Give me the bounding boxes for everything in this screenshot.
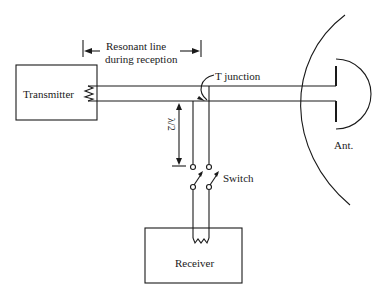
t-junction-label: T junction bbox=[215, 71, 260, 82]
receiver-coil-icon bbox=[193, 238, 209, 243]
antenna-arc bbox=[336, 59, 371, 129]
switch-terminal bbox=[191, 165, 196, 170]
receiver-label: Receiver bbox=[175, 258, 214, 269]
switch-terminal bbox=[191, 185, 196, 190]
switch-terminal bbox=[207, 185, 212, 190]
diagram-canvas: Transmitter Resonant line during recepti… bbox=[0, 0, 382, 296]
schematic-lines bbox=[0, 0, 382, 296]
transmitter-coil-icon bbox=[85, 86, 93, 101]
switch-terminal bbox=[207, 165, 212, 170]
switch-label: Switch bbox=[223, 173, 254, 184]
reflector-arc bbox=[301, 15, 350, 205]
lambda-label: λ/2 bbox=[166, 118, 176, 131]
resonant-line-label-2: during reception bbox=[105, 54, 177, 65]
transmitter-label: Transmitter bbox=[23, 89, 74, 100]
antenna-label: Ant. bbox=[334, 140, 353, 151]
resonant-line-label: Resonant line bbox=[106, 41, 166, 52]
